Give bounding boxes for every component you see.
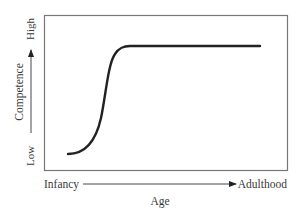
x-axis-end-label: Adulthood <box>238 178 287 190</box>
y-axis-low-label: Low <box>24 146 36 166</box>
competence-curve <box>68 46 260 154</box>
x-axis-title: Age <box>150 195 169 208</box>
y-axis-title: Competence <box>13 63 26 120</box>
plot-frame <box>45 16 288 171</box>
x-axis-start-label: Infancy <box>44 178 79 191</box>
y-axis-high-label: High <box>24 18 36 41</box>
competence-chart: High Competence Low Infancy Adulthood Ag… <box>0 0 301 214</box>
